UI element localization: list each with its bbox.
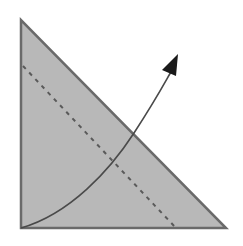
diagram-canvas: [0, 0, 243, 246]
diagram-svg: [0, 0, 243, 246]
arrowhead-icon: [162, 54, 178, 76]
right-triangle: [21, 20, 226, 228]
